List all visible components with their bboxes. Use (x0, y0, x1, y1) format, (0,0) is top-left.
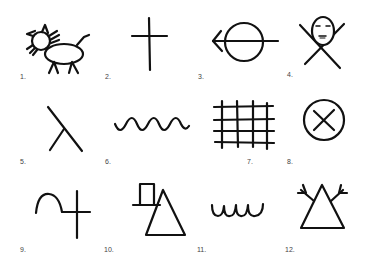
forked-lines-icon (48, 107, 82, 151)
symbol-label-9: 9. (20, 246, 26, 253)
cat-icon (27, 25, 89, 73)
arrow-through-circle-icon (213, 23, 278, 61)
symbol-label-3: 3. (198, 73, 204, 80)
grid-icon (214, 101, 274, 149)
symbols-figure (0, 0, 369, 263)
symbol-label-7: 7. (247, 158, 253, 165)
symbol-label-1: 1. (20, 73, 26, 80)
symbol-label-12: 12. (285, 246, 295, 253)
symbol-label-4: 4. (287, 71, 293, 78)
symbol-label-10: 10. (104, 246, 114, 253)
loops-icon (212, 204, 263, 216)
symbol-label-2: 2. (105, 73, 111, 80)
face-with-x-icon (300, 17, 344, 68)
triangle-with-branches-icon (298, 185, 347, 228)
cross-icon (132, 18, 167, 70)
wave-icon (115, 118, 189, 130)
box-and-triangle-icon (133, 184, 185, 235)
circled-x-icon (304, 100, 344, 140)
symbol-label-8: 8. (287, 158, 293, 165)
arc-and-cross-icon (36, 191, 90, 238)
symbol-label-11: 11. (197, 246, 206, 253)
symbol-label-6: 6. (105, 158, 111, 165)
symbol-label-5: 5. (20, 158, 26, 165)
